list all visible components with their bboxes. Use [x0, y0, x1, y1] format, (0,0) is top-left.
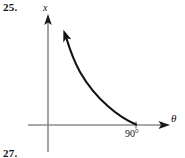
curve-path [67, 39, 137, 125]
next-problem-number-label: 27. [3, 148, 17, 158]
problem-number-label: 25. [3, 2, 17, 13]
y-axis-label: x [43, 3, 47, 13]
x-axis-label: θ [171, 113, 176, 124]
angle-tick-label: 90° [125, 129, 139, 139]
figure-container: 25. x θ 90° 27. [0, 0, 185, 158]
graph-svg [0, 0, 185, 158]
